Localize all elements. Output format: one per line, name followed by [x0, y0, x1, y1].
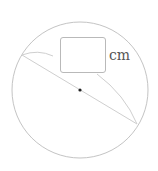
- unit-label: cm: [109, 47, 130, 63]
- center-point: [78, 88, 81, 91]
- leader-arc-right: [97, 74, 137, 124]
- leader-arc-left: [22, 52, 53, 56]
- circle-diagram: cm: [0, 0, 158, 171]
- answer-input-box[interactable]: [60, 37, 106, 73]
- diagram-canvas: [0, 0, 158, 171]
